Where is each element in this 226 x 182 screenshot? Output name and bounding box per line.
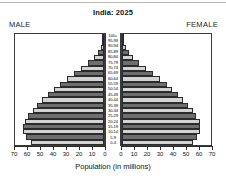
age-group-label: 0-4 [106,141,120,146]
axis-tick [212,146,213,150]
header-rule [0,2,226,3]
axis-tick [53,146,54,150]
male-plot-panel [14,33,105,146]
female-tick-labels: 010203040506070 [121,151,212,160]
bar-male-0-4 [31,140,104,145]
axis-tick [79,146,80,150]
axis-tick-label: 40 [170,151,177,157]
axis-tick-label: 40 [50,151,57,157]
bar-row [122,140,211,145]
male-panel-label: MALE [9,20,31,29]
axis-tick [66,146,67,150]
bar-row [15,140,104,145]
axis-tick [121,146,122,150]
chart-title: India: 2025 [0,8,226,17]
x-axis-title: Population (in millions) [0,162,226,171]
axis-tick-label: 60 [24,151,31,157]
age-group-axis: 100+95-9990-9485-8980-8475-7970-7465-696… [105,33,121,146]
axis-tick-label: 30 [157,151,164,157]
axis-tick [27,146,28,150]
axis-tick-label: 20 [144,151,151,157]
axis-tick-label: 50 [37,151,44,157]
male-bar-rows [15,34,104,145]
axis-tick-label: 60 [196,151,203,157]
axis-tick [92,146,93,150]
axis-tick-label: 10 [131,151,138,157]
axis-tick [105,146,106,150]
female-x-axis [121,146,212,150]
axis-tick-label: 0 [119,151,122,157]
female-bar-rows [122,34,211,145]
axis-tick [14,146,15,150]
male-x-axis [14,146,105,150]
bar-female-0-4 [122,140,193,145]
axis-tick [186,146,187,150]
population-pyramid-figure: India: 2025 MALE FEMALE 100+95-9990-9485… [0,0,226,182]
axis-tick [40,146,41,150]
axis-tick-label: 70 [209,151,216,157]
female-plot-panel [121,33,212,146]
axis-tick-label: 20 [76,151,83,157]
axis-tick-label: 30 [63,151,70,157]
axis-tick [147,146,148,150]
axis-tick [160,146,161,150]
male-tick-labels: 706050403020100 [14,151,105,160]
axis-tick [134,146,135,150]
axis-tick-label: 50 [183,151,190,157]
female-panel-label: FEMALE [186,20,218,29]
axis-tick [173,146,174,150]
axis-tick-label: 0 [103,151,106,157]
axis-tick-label: 70 [11,151,18,157]
axis-tick [199,146,200,150]
axis-tick-label: 10 [89,151,96,157]
